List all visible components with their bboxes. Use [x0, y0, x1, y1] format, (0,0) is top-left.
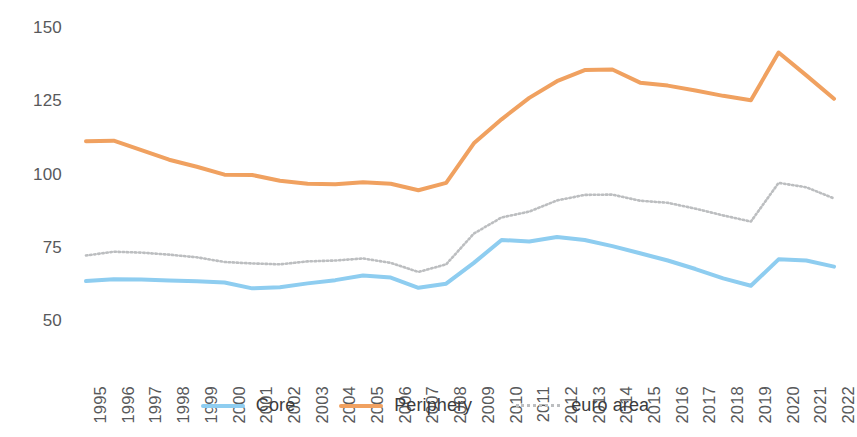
legend-item-euro-area[interactable]: euro area [516, 395, 649, 416]
y-axis-tick-label: 150 [0, 19, 62, 36]
y-axis-tick-label: 125 [0, 92, 62, 109]
legend-label: Periphery [394, 395, 472, 416]
legend-item-core[interactable]: Core [201, 395, 295, 416]
chart-legend: CorePeripheryeuro area [0, 395, 850, 416]
y-axis-tick-label: 100 [0, 165, 62, 182]
series-line-core [86, 237, 834, 288]
y-axis: 5075100125150 [0, 0, 62, 340]
x-axis: 1995199619971998199920002001200220032004… [72, 318, 842, 388]
plot-area [72, 0, 842, 340]
legend-item-periphery[interactable]: Periphery [339, 395, 472, 416]
series-line-euro-area [86, 183, 834, 272]
legend-swatch-icon [201, 404, 245, 408]
legend-label: Core [256, 395, 295, 416]
plot-svg [72, 0, 842, 340]
legend-label: euro area [571, 395, 649, 416]
legend-swatch-icon [516, 404, 560, 407]
y-axis-tick-label: 75 [0, 238, 62, 255]
y-axis-tick-label: 50 [0, 312, 62, 329]
series-line-periphery [86, 52, 834, 190]
legend-swatch-icon [339, 404, 383, 408]
